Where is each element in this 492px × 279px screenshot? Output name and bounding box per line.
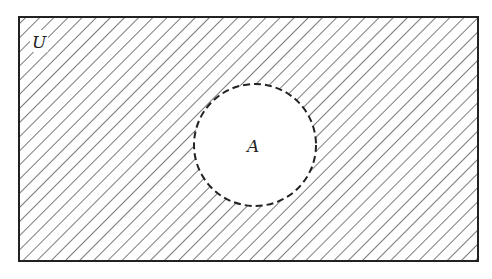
set-a-label: A [245, 136, 259, 156]
universe-label: U [32, 32, 47, 52]
venn-diagram: U A [0, 0, 492, 279]
